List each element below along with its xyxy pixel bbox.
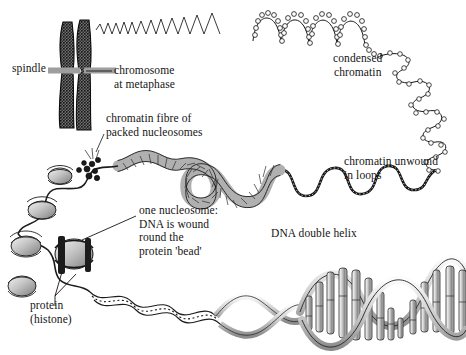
leader-fibre [96,134,104,152]
label-dna-double-helix: DNA double helix [271,227,357,241]
condensed-chromatin-coil [96,13,365,46]
label-chromatin-unwound-in-loops: chromatin unwound in loops [344,155,438,182]
beads-on-string [8,148,118,297]
label-chromatin-fibre: chromatin fibre of packed nucleosomes [106,112,203,139]
leader-nucleosome [82,216,136,240]
label-spindle: spindle [12,62,46,76]
dna-helix-detailed [300,259,466,347]
diagram-canvas: spindle chromosome at metaphase condense… [0,0,466,355]
small-nucleosome-cluster [77,157,101,180]
dna-double-helix [90,259,466,347]
histone-bead-4 [8,276,36,297]
label-chromosome-at-metaphase: chromosome at metaphase [114,64,175,91]
histone-bead-3 [10,231,42,257]
histone-bead-2 [27,197,57,220]
highlighted-nucleosome [55,236,93,274]
metaphase-chromosome [52,14,102,138]
chromatin-fibre-ribbon [118,151,280,210]
dna-unwinding-segment [90,292,220,324]
chromatid-right [70,14,102,138]
label-protein-histone: protein (histone) [30,299,72,326]
histone-bead-1 [47,166,73,185]
label-condensed-chromatin: condensed chromatin [333,52,382,79]
label-one-nucleosome: one nucleosome: DNA is wound round the p… [139,204,218,258]
dna-ribbon-segment [216,296,306,335]
